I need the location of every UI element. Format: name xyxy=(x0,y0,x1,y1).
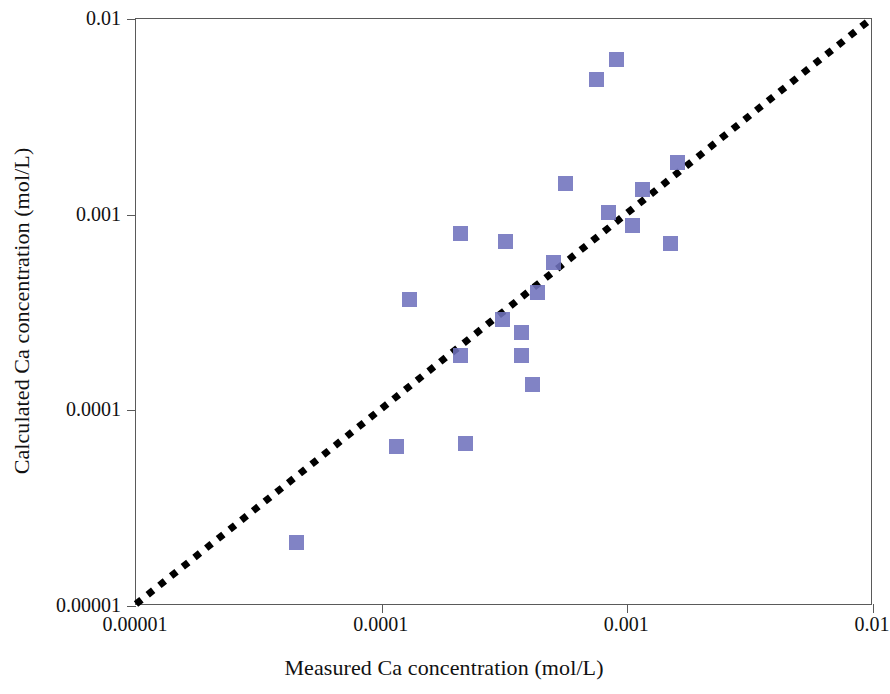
x-axis-tick xyxy=(873,604,874,613)
data-point-marker xyxy=(530,285,545,300)
data-point-marker xyxy=(495,312,510,327)
data-point-marker xyxy=(635,182,650,197)
data-point-marker xyxy=(453,348,468,363)
data-point-marker xyxy=(589,72,604,87)
y-axis-title: Calculated Ca concentration (mol/L) xyxy=(9,11,35,611)
x-axis-tick-labels: 0.000010.00010.0010.01 xyxy=(135,614,872,644)
data-point-marker xyxy=(289,535,304,550)
y-axis-tick xyxy=(127,410,136,411)
data-point-marker xyxy=(546,255,561,270)
x-axis-tick-label: 0.00001 xyxy=(103,614,168,634)
data-point-marker xyxy=(609,52,624,67)
data-point-marker xyxy=(601,205,616,220)
y-axis-tick-label: 0.00001 xyxy=(56,595,121,615)
data-point-marker xyxy=(663,236,678,251)
data-point-marker xyxy=(402,292,417,307)
data-point-marker xyxy=(389,439,404,454)
plot-area xyxy=(135,18,872,605)
data-point-marker xyxy=(458,436,473,451)
x-axis-tick xyxy=(382,604,383,613)
data-point-marker xyxy=(453,226,468,241)
y-axis-tick xyxy=(127,606,136,607)
data-point-marker xyxy=(670,155,685,170)
data-point-marker xyxy=(514,325,529,340)
y-axis-tick xyxy=(127,215,136,216)
data-point-marker xyxy=(558,176,573,191)
data-point-marker xyxy=(514,348,529,363)
x-axis-tick-label: 0.01 xyxy=(855,614,890,634)
x-axis-title: Measured Ca concentration (mol/L) xyxy=(0,655,888,681)
x-axis-tick-label: 0.0001 xyxy=(353,614,408,634)
data-point-marker xyxy=(625,218,640,233)
y-axis-tick xyxy=(127,19,136,20)
x-axis-tick-label: 0.001 xyxy=(604,614,649,634)
data-point-marker xyxy=(525,377,540,392)
y-axis-tick-label: 0.01 xyxy=(86,8,121,28)
x-axis-tick xyxy=(627,604,628,613)
y-axis-tick-label: 0.001 xyxy=(76,204,121,224)
data-point-marker xyxy=(498,234,513,249)
y-axis-tick-label: 0.0001 xyxy=(66,399,121,419)
